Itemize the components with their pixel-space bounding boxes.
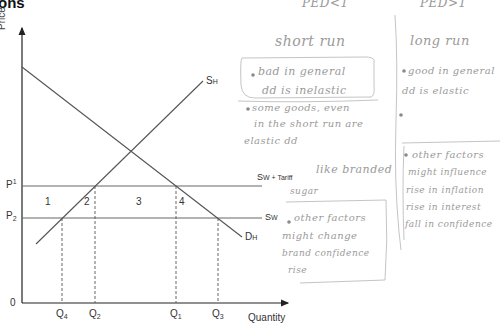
note-line: rise in inflation bbox=[406, 186, 484, 195]
note-line: dd is elastic bbox=[402, 86, 469, 96]
demand-curve-dh bbox=[22, 67, 242, 237]
curve-label-sw: SW bbox=[265, 213, 278, 222]
quantity-label-q2: Q2 bbox=[89, 309, 101, 320]
note-line: sugar bbox=[290, 187, 318, 196]
area-label-2: 2 bbox=[84, 197, 90, 207]
curve-label-dh: DH bbox=[245, 232, 257, 242]
note-heading-ped-lt-1: PED<1 bbox=[302, 0, 349, 9]
quantity-label-q1: Q1 bbox=[170, 309, 182, 320]
note-line: fall in confidence bbox=[405, 220, 493, 229]
area-label-3: 3 bbox=[136, 197, 142, 207]
note-line: other factors bbox=[294, 213, 366, 223]
note-line: like branded bbox=[316, 164, 392, 175]
area-label-1: 1 bbox=[45, 197, 51, 207]
supply-curve-sh bbox=[36, 81, 203, 244]
note-line: might change bbox=[282, 231, 357, 241]
area-label-4: 4 bbox=[179, 197, 185, 207]
note-line: elastic dd bbox=[244, 136, 298, 146]
note-subheading-long-run: long run bbox=[410, 34, 470, 47]
note-line: dd is inelastic bbox=[262, 85, 347, 96]
note-line: other factors bbox=[412, 150, 484, 160]
note-subheading-short-run: short run bbox=[275, 34, 346, 48]
note-line: good in general bbox=[408, 66, 495, 76]
price-label-p2: P2 bbox=[6, 211, 17, 222]
y-axis-label: Price bbox=[0, 7, 7, 30]
chart-figure: ons bbox=[0, 0, 502, 327]
quantity-label-q3: Q3 bbox=[212, 309, 224, 320]
curve-label-sw-tariff: SW + Tariff bbox=[257, 173, 293, 182]
note-line: rise bbox=[288, 266, 307, 275]
note-line: some goods, even bbox=[252, 103, 350, 113]
note-line: brand confidence bbox=[282, 249, 370, 258]
quantity-label-q4: Q4 bbox=[56, 309, 68, 320]
price-label-p1: P1 bbox=[6, 178, 17, 190]
note-line: rise in interest bbox=[406, 203, 481, 212]
note-line: bad in general bbox=[258, 66, 346, 77]
origin-label: 0 bbox=[10, 298, 16, 308]
note-line: might influence bbox=[408, 168, 487, 177]
x-axis-label: Quantity bbox=[248, 313, 285, 323]
curve-label-sh: SH bbox=[206, 76, 218, 86]
note-line: in the short run are bbox=[254, 119, 363, 129]
chart-canvas bbox=[0, 0, 502, 327]
note-heading-ped-gt-1: PED>1 bbox=[420, 0, 467, 9]
